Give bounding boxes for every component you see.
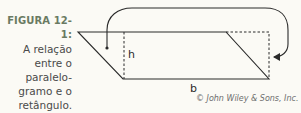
arrow-start-dot: [105, 46, 108, 49]
height-label: h: [128, 48, 135, 61]
copyright-credit: © John Wiley & Sons, Inc.: [196, 94, 298, 103]
